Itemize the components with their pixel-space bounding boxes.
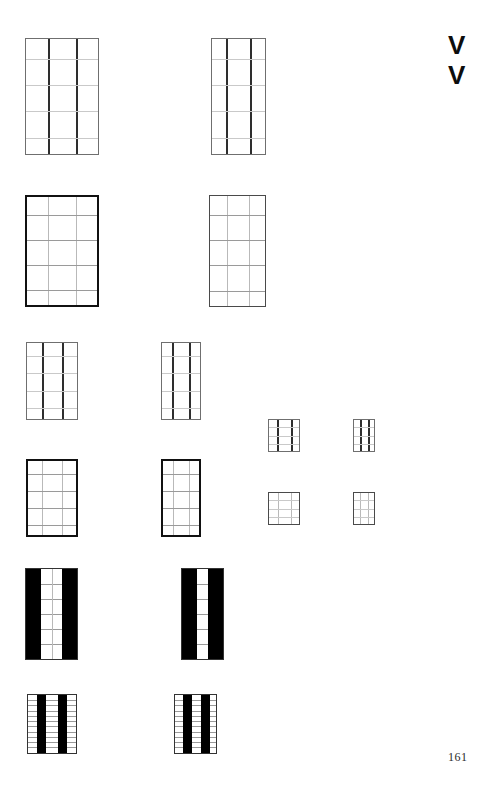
margin-mark-v-1: V <box>448 32 465 58</box>
figure-fig-r1-c2 <box>211 38 266 155</box>
figure-fig-r4-c2 <box>161 459 201 537</box>
figure-fig-r4-c4 <box>353 492 375 525</box>
figure-fig-r2-c2 <box>209 195 266 307</box>
vertical-gridline <box>189 343 191 419</box>
page-number: 161 <box>448 750 468 765</box>
horizontal-gridline <box>210 240 265 241</box>
horizontal-gridline <box>269 436 299 437</box>
horizontal-gridline <box>210 265 265 266</box>
horizontal-gridline <box>26 111 98 112</box>
horizontal-gridline <box>28 737 76 738</box>
horizontal-gridline <box>354 427 374 428</box>
figure-fig-r1-c1 <box>25 38 99 155</box>
solid-pier-band <box>26 569 41 659</box>
solid-pier-band <box>183 695 192 753</box>
horizontal-gridline <box>269 517 299 518</box>
horizontal-gridline <box>28 742 76 743</box>
vertical-gridline <box>42 461 43 535</box>
horizontal-gridline <box>163 525 199 526</box>
horizontal-gridline <box>27 265 97 266</box>
figure-fig-r5-c1 <box>25 568 78 660</box>
horizontal-gridline <box>354 444 374 445</box>
horizontal-gridline <box>26 85 98 86</box>
figure-fig-r4-c3 <box>268 492 300 525</box>
horizontal-gridline <box>28 732 76 733</box>
horizontal-gridline <box>28 711 76 712</box>
vertical-gridline <box>48 39 50 154</box>
horizontal-gridline <box>210 215 265 216</box>
horizontal-gridline <box>212 85 265 86</box>
solid-pier-band <box>208 569 223 659</box>
horizontal-gridline <box>212 138 265 139</box>
vertical-gridline <box>368 493 369 524</box>
horizontal-gridline <box>212 59 265 60</box>
figure-fig-r6-c1 <box>27 694 77 754</box>
horizontal-gridline <box>162 408 200 409</box>
figure-gridlines <box>354 493 374 524</box>
figure-fig-r3-c4 <box>353 419 375 452</box>
vertical-gridline <box>277 420 279 451</box>
horizontal-gridline <box>27 290 97 291</box>
figure-fig-r2-c1 <box>25 195 99 307</box>
vertical-gridline <box>76 39 78 154</box>
horizontal-gridline <box>27 240 97 241</box>
horizontal-gridline <box>269 444 299 445</box>
figure-gridlines <box>27 343 77 419</box>
figure-gridlines <box>27 197 97 305</box>
vertical-gridline <box>172 343 174 419</box>
vertical-gridline <box>173 461 174 535</box>
horizontal-gridline <box>27 356 77 357</box>
horizontal-gridline <box>269 500 299 501</box>
vertical-gridline <box>42 343 44 419</box>
horizontal-gridline <box>162 391 200 392</box>
horizontal-gridline <box>27 215 97 216</box>
horizontal-gridline <box>27 408 77 409</box>
figure-gridlines <box>354 420 374 451</box>
horizontal-gridline <box>27 391 77 392</box>
vertical-gridline <box>360 493 361 524</box>
figure-fig-r3-c1 <box>26 342 78 420</box>
horizontal-gridline <box>210 291 265 292</box>
horizontal-gridline <box>26 59 98 60</box>
vertical-gridline <box>249 196 250 306</box>
figure-fig-r3-c3 <box>268 419 300 452</box>
horizontal-gridline <box>28 721 76 722</box>
horizontal-gridline <box>27 373 77 374</box>
figure-gridlines <box>210 196 265 306</box>
horizontal-gridline <box>163 474 199 475</box>
horizontal-gridline <box>163 491 199 492</box>
figure-fig-r4-c1 <box>26 459 78 537</box>
vertical-gridline <box>250 39 252 154</box>
horizontal-gridline <box>354 509 374 510</box>
figure-gridlines <box>212 39 265 154</box>
solid-pier-band <box>182 569 197 659</box>
figure-gridlines <box>163 461 199 535</box>
horizontal-gridline <box>162 373 200 374</box>
vertical-gridline <box>48 197 49 305</box>
figure-fig-r5-c2 <box>181 568 224 660</box>
figure-gridlines <box>26 39 98 154</box>
vertical-gridline <box>76 197 77 305</box>
vertical-gridline <box>189 461 190 535</box>
horizontal-gridline <box>162 356 200 357</box>
horizontal-gridline <box>28 525 76 526</box>
horizontal-gridline <box>28 726 76 727</box>
figure-gridlines <box>269 493 299 524</box>
horizontal-gridline <box>28 716 76 717</box>
vertical-gridline <box>291 420 293 451</box>
vertical-gridline <box>291 493 292 524</box>
horizontal-gridline <box>269 427 299 428</box>
figure-fig-r6-c2 <box>174 694 217 754</box>
horizontal-gridline <box>354 500 374 501</box>
horizontal-gridline <box>28 747 76 748</box>
solid-pier-band <box>37 695 47 753</box>
vertical-gridline <box>226 39 228 154</box>
vertical-gridline <box>278 493 279 524</box>
margin-mark-v-2: V <box>448 62 465 88</box>
document-page: V V 161 <box>0 0 487 800</box>
horizontal-gridline <box>28 474 76 475</box>
vertical-gridline <box>62 461 63 535</box>
horizontal-gridline <box>28 705 76 706</box>
horizontal-gridline <box>163 508 199 509</box>
horizontal-gridline <box>28 508 76 509</box>
